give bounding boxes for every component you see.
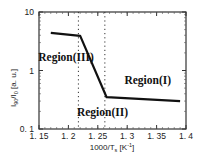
x-tick-label: 1. 25: [88, 131, 107, 141]
x-tick-label: 1. 2: [61, 131, 75, 141]
x-axis-label: 1000/Ts [K-1]: [90, 142, 135, 153]
x-tick-label: 1. 4: [179, 131, 193, 141]
region-label: Region(III): [38, 51, 94, 64]
chart: 1. 151. 21. 251. 31. 351. 4 0. 1110 Regi…: [0, 0, 197, 155]
data-series: [51, 33, 180, 101]
y-tick-label: 1: [29, 66, 34, 76]
region-label: Region(I): [124, 74, 171, 87]
region-annotations: Region(III)Region(II)Region(I): [38, 51, 171, 118]
data-line: [51, 33, 180, 101]
y-tick-label: 0. 1: [20, 124, 34, 134]
y-axis-label: I90/I0 [a. u.]: [9, 69, 19, 107]
y-tick-label: 10: [25, 7, 35, 17]
x-tick-label: 1. 35: [147, 131, 166, 141]
x-tick-label: 1. 3: [120, 131, 134, 141]
region-label: Region(II): [77, 106, 128, 119]
